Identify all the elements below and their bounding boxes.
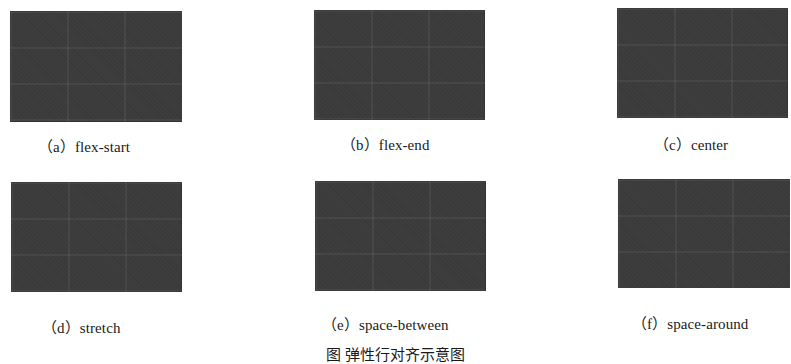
panel-image-space-between [315,181,486,291]
panel-image-flex-end [314,10,485,120]
panel-label-stretch: （d）stretch [42,316,120,337]
panel-image-center [617,8,788,118]
panel-image-stretch [11,182,182,292]
panel-image-flex-start [10,11,182,122]
panel-label-space-between: （e）space-between [322,313,449,334]
panel-label-flex-end: （b）flex-end [341,133,430,154]
panel-label-flex-start: （a）flex-start [38,135,130,156]
panel-label-space-around: （f）space-around [632,312,748,333]
panel-label-center: （c）center [654,133,728,154]
panel-image-space-around [618,179,790,288]
figure-caption: 图 弹性行对齐示意图 [0,343,791,364]
